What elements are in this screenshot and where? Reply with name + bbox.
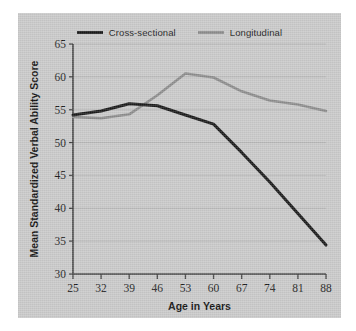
y-tick-label: 35 [55, 235, 67, 247]
series-line-cross-sectional[interactable] [73, 104, 326, 245]
x-tick-label: 25 [67, 282, 79, 294]
y-tick-label: 65 [55, 38, 67, 50]
y-axis-title: Mean Standardized Verbal Ability Score [28, 60, 40, 257]
y-tick-label: 40 [55, 202, 67, 214]
y-tick-label: 45 [55, 169, 67, 181]
y-tick-label: 60 [55, 71, 67, 83]
x-tick-label: 60 [208, 282, 220, 294]
x-tick-label: 67 [236, 282, 248, 294]
line-chart-svg: 303540455055606525323946536067748188Age … [18, 13, 341, 318]
x-tick-label: 74 [264, 282, 276, 294]
y-tick-label: 50 [55, 137, 67, 149]
chart-figure: Cross-sectional Longitudinal 30354045505… [18, 13, 341, 318]
x-tick-label: 32 [95, 282, 107, 294]
plot-area: 303540455055606525323946536067748188Age … [18, 13, 341, 318]
x-tick-label: 53 [180, 282, 192, 294]
x-tick-label: 46 [152, 282, 164, 294]
x-axis-title: Age in Years [168, 300, 231, 312]
y-tick-label: 55 [55, 104, 67, 116]
x-tick-label: 81 [292, 282, 304, 294]
x-tick-label: 88 [320, 282, 332, 294]
series-line-longitudinal[interactable] [73, 74, 326, 119]
y-tick-label: 30 [55, 268, 67, 280]
x-tick-label: 39 [123, 282, 135, 294]
